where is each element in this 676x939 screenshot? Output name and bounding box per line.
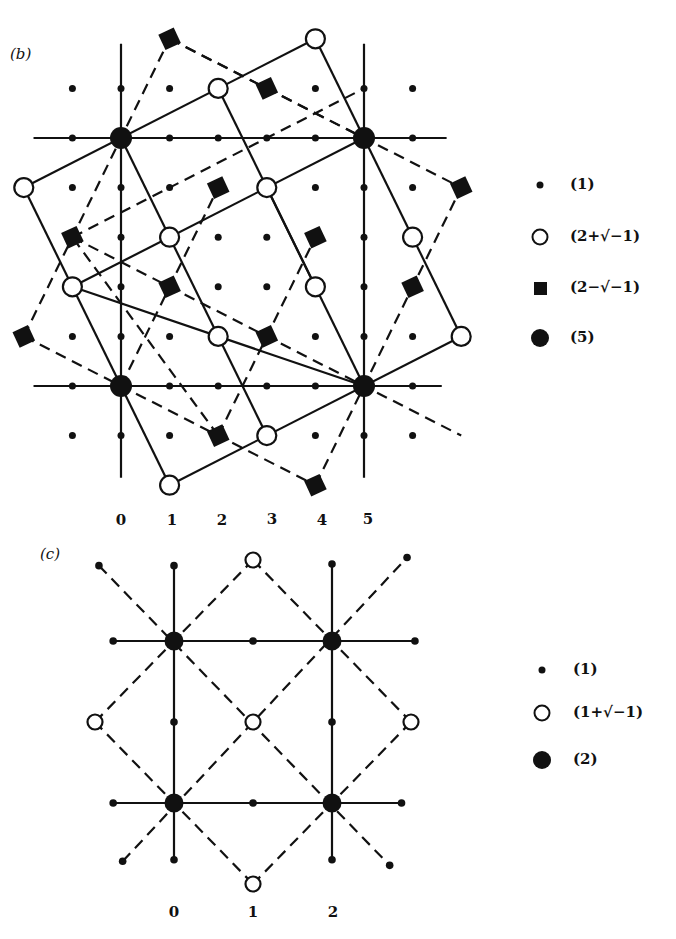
lattice-point-dot — [328, 560, 336, 568]
open-circle-marker — [306, 277, 325, 296]
panel-b-x-tick-label: 1 — [167, 511, 177, 529]
open-circle-marker — [404, 715, 419, 730]
lattice-point-dot — [312, 135, 319, 142]
lattice-point-dot — [166, 85, 173, 92]
lattice-point-dot — [109, 637, 117, 645]
lattice-point-dot — [409, 432, 416, 439]
lattice-point-dot — [361, 184, 368, 191]
lattice-point-dot — [69, 85, 76, 92]
panel-b-x-tick-label: 3 — [267, 510, 277, 528]
lattice-point-dot — [398, 799, 406, 807]
lattice-point-dot — [361, 234, 368, 241]
lattice-point-dot — [312, 432, 319, 439]
big-node-marker — [110, 375, 132, 397]
dashed-connector-line — [24, 336, 316, 485]
filled-square-icon — [532, 278, 552, 298]
lattice-point-dot — [409, 383, 416, 390]
lattice-point-dot — [69, 432, 76, 439]
lattice-point-dot — [95, 562, 103, 570]
solid-connector-line — [24, 39, 316, 188]
legend-b-text: (1) — [570, 175, 595, 193]
panel-c-x-tick-label: 2 — [328, 903, 338, 921]
dashed-connector-line — [24, 39, 170, 337]
solid-connector-line — [24, 188, 170, 486]
open-circle-marker — [257, 426, 276, 445]
square-marker — [256, 325, 279, 348]
lattice-point-dot — [249, 799, 257, 807]
open-circle-marker — [209, 79, 228, 98]
big-node-marker — [323, 794, 342, 813]
panel-b-x-tick-label: 2 — [217, 511, 227, 529]
legend-c-text: (2) — [573, 750, 598, 768]
lattice-point-dot — [166, 135, 173, 142]
lattice-point-dot — [328, 718, 336, 726]
dashed-connector-line — [72, 88, 364, 237]
open-circle-marker — [452, 327, 471, 346]
lattice-point-dot — [118, 184, 125, 191]
lattice-point-dot — [170, 856, 178, 864]
open-circle-marker — [246, 715, 261, 730]
big-node-marker — [353, 127, 375, 149]
open-circle-marker — [14, 178, 33, 197]
lattice-point-dot — [215, 234, 222, 241]
panel-b-diagram — [13, 28, 473, 497]
open-circle-icon — [533, 702, 555, 724]
square-marker — [158, 276, 181, 299]
lattice-point-dot — [118, 283, 125, 290]
lattice-point-dot — [361, 333, 368, 340]
lattice-point-dot — [263, 283, 270, 290]
lattice-point-dot — [409, 135, 416, 142]
square-marker — [158, 28, 181, 51]
square-marker — [401, 276, 424, 299]
square-marker — [207, 424, 230, 447]
square-marker — [304, 226, 327, 249]
lattice-point-dot — [312, 383, 319, 390]
lattice-point-dot — [409, 85, 416, 92]
lattice-point-dot — [69, 383, 76, 390]
lattice-point-dot — [361, 432, 368, 439]
open-circle-marker — [160, 476, 179, 495]
lattice-point-dot — [263, 234, 270, 241]
panel-c-label: (c) — [40, 545, 60, 563]
lattice-point-dot — [170, 718, 178, 726]
square-marker — [256, 77, 279, 100]
solid-connector-line — [121, 138, 267, 436]
lattice-point-dot — [263, 383, 270, 390]
lattice-point-dot — [263, 135, 270, 142]
lattice-point-dot — [118, 234, 125, 241]
panel-b-x-tick-label: 5 — [363, 510, 373, 528]
lattice-diagram-canvas — [0, 0, 676, 939]
lattice-point-dot — [409, 333, 416, 340]
lattice-point-dot — [312, 85, 319, 92]
lattice-point-dot — [109, 799, 117, 807]
lattice-point-dot — [312, 184, 319, 191]
open-circle-marker — [246, 877, 261, 892]
lattice-point-dot — [166, 432, 173, 439]
legend-c-text: (1+√−1) — [573, 703, 643, 721]
big-dot-icon — [530, 327, 552, 349]
lattice-point-dot — [215, 283, 222, 290]
lattice-point-dot — [249, 637, 257, 645]
lattice-point-dot — [118, 432, 125, 439]
square-marker — [450, 176, 473, 199]
open-circle-marker — [257, 178, 276, 197]
lattice-point-dot — [403, 554, 411, 562]
lattice-point-dot — [215, 135, 222, 142]
panel-b-label: (b) — [10, 45, 31, 63]
solid-connector-line — [170, 336, 462, 485]
panel-c-diagram — [88, 553, 419, 892]
lattice-point-dot — [411, 637, 419, 645]
big-node-marker — [165, 794, 184, 813]
open-circle-marker — [63, 277, 82, 296]
panel-b-x-tick-label: 0 — [116, 511, 126, 529]
big-node-marker — [110, 127, 132, 149]
dashed-connector-line — [123, 558, 407, 862]
solid-connector-line — [315, 39, 461, 337]
lattice-point-dot — [166, 333, 173, 340]
open-circle-marker — [88, 715, 103, 730]
big-dot-icon — [533, 749, 555, 771]
small-dot-icon — [535, 660, 555, 680]
open-circle-marker — [403, 228, 422, 247]
small-dot-icon — [532, 175, 552, 195]
lattice-point-dot — [312, 333, 319, 340]
